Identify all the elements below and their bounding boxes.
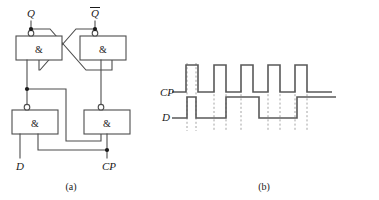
inversion-bubble-bottom-left (24, 104, 30, 110)
circuit-diagram (12, 21, 130, 158)
timing-label-cp: CP (160, 86, 174, 98)
label-q: Q (27, 7, 35, 19)
wire-g3-to-cp (38, 134, 107, 150)
nand-gate-top-right-symbol: & (99, 44, 107, 55)
junction-mid (25, 87, 29, 91)
inversion-bubble-top-left (28, 30, 34, 36)
label-q-bar: Q (91, 7, 99, 19)
caption-a: (a) (65, 181, 76, 193)
nand-gate-top-left-symbol: & (35, 44, 43, 55)
junction-cp (105, 148, 109, 152)
figure-root: & & & & Q Q D CP (a) CP D (b) (0, 0, 379, 200)
nand-gate-bottom-left-symbol: & (31, 118, 39, 129)
timing-label-d: D (161, 111, 170, 123)
junction-q (29, 27, 33, 31)
figure-svg: & & & & Q Q D CP (a) CP D (b) (0, 0, 379, 200)
caption-b: (b) (258, 181, 270, 193)
inversion-bubble-bottom-right (98, 104, 104, 110)
waveform-d (172, 97, 336, 118)
label-cp: CP (102, 160, 116, 172)
label-d: D (15, 160, 24, 172)
junction-qbar (93, 27, 97, 31)
nand-gate-bottom-right-symbol: & (103, 118, 111, 129)
inversion-bubble-top-right (92, 30, 98, 36)
timing-diagram (172, 63, 336, 131)
